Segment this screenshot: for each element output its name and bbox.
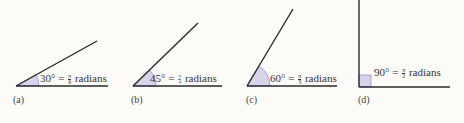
equals-sign: = bbox=[58, 72, 64, 84]
caption-b: (b) bbox=[131, 94, 143, 105]
angle-label-a: 30° = π6 radians bbox=[40, 72, 107, 85]
degrees-value: 90° bbox=[374, 66, 389, 78]
unit-label: radians bbox=[409, 66, 441, 78]
radian-fraction: π2 bbox=[402, 68, 405, 79]
equals-sign: = bbox=[168, 72, 174, 84]
angle-label-c: 60° = π3 radians bbox=[270, 72, 337, 85]
angle-label-b: 45° = π4 radians bbox=[150, 72, 217, 85]
degrees-value: 60° bbox=[270, 72, 285, 84]
radian-fraction: π6 bbox=[68, 74, 71, 85]
right-angle-marker bbox=[359, 75, 371, 87]
caption-d: (d) bbox=[358, 94, 370, 105]
equals-sign: = bbox=[288, 72, 294, 84]
unit-label: radians bbox=[75, 72, 107, 84]
angle-wedge-60 bbox=[247, 66, 270, 86]
degrees-value: 45° bbox=[150, 72, 165, 84]
caption-a: (a) bbox=[13, 94, 24, 105]
radian-fraction: π3 bbox=[298, 74, 301, 85]
angle-diagram bbox=[0, 0, 464, 123]
unit-label: radians bbox=[305, 72, 337, 84]
radian-fraction: π4 bbox=[178, 74, 181, 85]
unit-label: radians bbox=[185, 72, 217, 84]
caption-c: (c) bbox=[246, 94, 257, 105]
degrees-value: 30° bbox=[40, 72, 55, 84]
equals-sign: = bbox=[392, 66, 398, 78]
angle-label-d: 90° = π2 radians bbox=[374, 66, 441, 79]
